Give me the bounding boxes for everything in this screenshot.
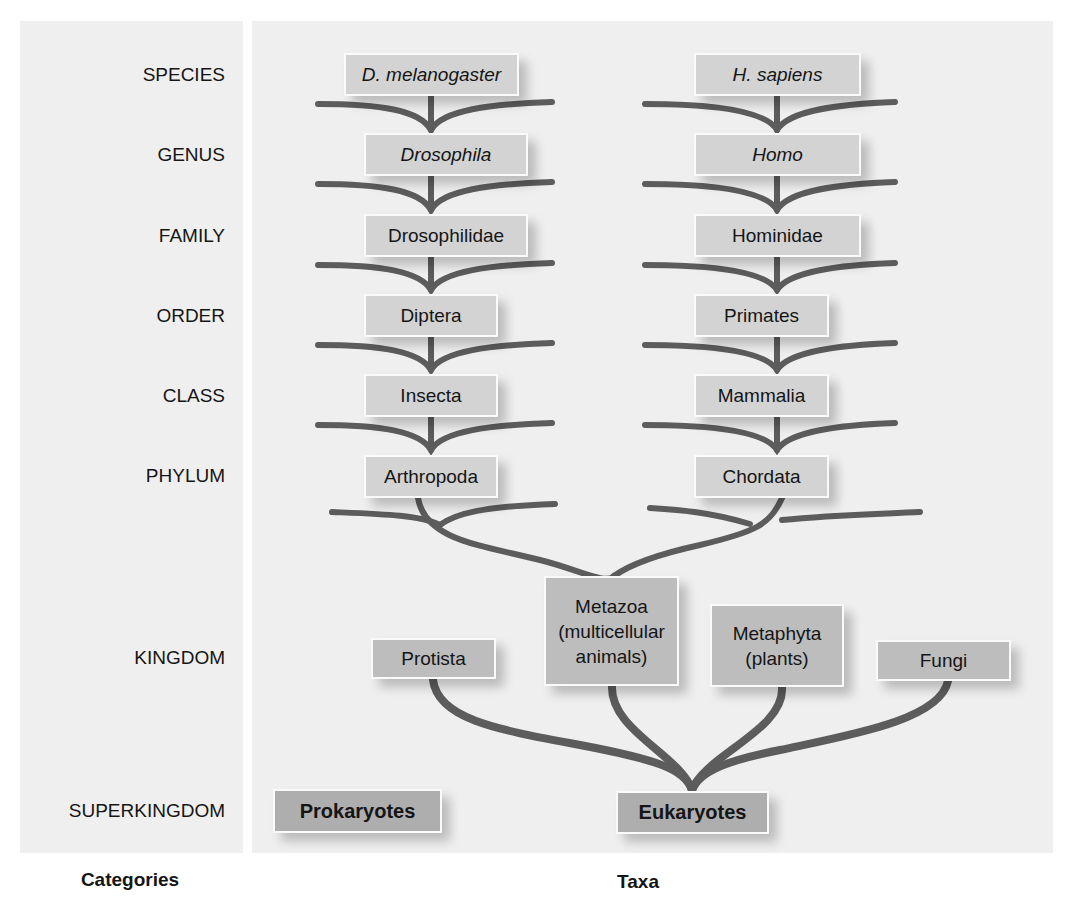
taxon-prokaryotes: Prokaryotes [273,789,442,833]
metaphyta-line-2: (plants) [745,646,808,671]
metazoa-line-2: (multicellular [558,619,665,644]
category-superkingdom: SUPERKINGDOM [69,800,225,822]
category-species: SPECIES [143,64,225,86]
taxon-eukaryotes: Eukaryotes [616,791,769,834]
taxon-diptera: Diptera [364,294,498,337]
metazoa-branches [332,498,920,579]
metazoa-line-3: animals) [576,644,648,669]
taxon-chordata: Chordata [694,455,829,498]
taxon-h-sapiens: H. sapiens [694,53,861,96]
category-order: ORDER [156,305,225,327]
taxon-protista: Protista [371,638,496,679]
phylogeny-branches [0,0,1076,917]
category-class: CLASS [163,385,225,407]
taxon-metaphyta: Metaphyta (plants) [710,604,844,687]
taxon-metazoa: Metazoa (multicellular animals) [544,576,679,686]
taxon-primates: Primates [694,294,829,337]
category-kingdom: KINGDOM [134,647,225,669]
taxon-homo: Homo [694,133,861,176]
category-phylum: PHYLUM [146,465,225,487]
category-family: FAMILY [159,225,225,247]
taxon-mammalia: Mammalia [694,374,829,417]
categories-heading: Categories [81,869,179,891]
taxon-arthropoda: Arthropoda [364,455,498,498]
taxon-insecta: Insecta [364,374,498,417]
taxon-d-melanogaster: D. melanogaster [344,53,519,96]
taxon-drosophilidae: Drosophilidae [364,214,528,257]
metazoa-line-1: Metazoa [575,594,648,619]
taxon-fungi: Fungi [876,640,1011,681]
metaphyta-line-1: Metaphyta [733,621,822,646]
taxa-heading: Taxa [617,871,659,893]
taxon-hominidae: Hominidae [694,214,861,257]
taxon-drosophila: Drosophila [364,133,528,176]
category-genus: GENUS [157,144,225,166]
eukaryote-branches [433,680,948,790]
